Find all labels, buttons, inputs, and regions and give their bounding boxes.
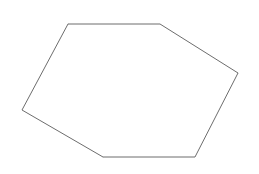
- cube-svg: [0, 0, 259, 174]
- drawing-canvas: [0, 0, 259, 174]
